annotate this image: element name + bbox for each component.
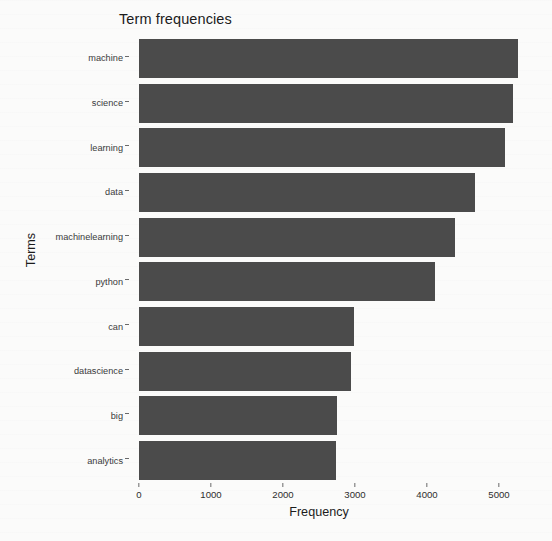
x-axis-tick-label: 0 [136,489,141,500]
x-axis-tick-label: 2000 [272,489,293,500]
y-axis-tick: datascience [0,365,131,377]
y-axis-tick-mark [125,458,129,459]
y-axis-tick-mark [125,235,129,236]
bar [139,128,505,167]
y-axis-tick: learning [0,142,131,154]
y-axis-tick-mark [125,324,129,325]
y-axis-tick: analytics [0,455,131,467]
bar [139,352,351,391]
bar [139,441,336,480]
bar-row [139,262,499,301]
bar [139,218,455,257]
y-axis-tick-label: machinelearning [56,232,125,242]
y-axis-tick-mark [125,190,129,191]
bar-row [139,39,499,78]
x-axis-tick-mark [283,483,284,487]
y-axis-tick: can [0,321,131,333]
bar [139,39,518,78]
x-axis-title: Frequency [139,505,499,519]
y-axis-tick-label: big [111,411,125,421]
bar [139,307,354,346]
y-axis-tick-labels: machinesciencelearningdatamachinelearnin… [0,36,131,483]
bar-row [139,441,499,480]
bar-row [139,128,499,167]
x-axis-tick-label: 3000 [344,489,365,500]
y-axis-tick-label: datascience [74,366,125,376]
bar-chart: Term frequencies machinesciencelearningd… [0,0,552,541]
bar-row [139,396,499,435]
y-axis-tick-label: science [92,98,125,108]
y-axis-tick-label: python [95,277,125,287]
chart-title: Term frequencies [119,11,232,27]
x-axis-tick: 5000 [488,483,509,500]
x-axis-tick-mark [499,483,500,487]
bar [139,396,337,435]
bar [139,84,513,123]
x-axis-tick-mark [355,483,356,487]
x-axis-tick: 4000 [416,483,437,500]
y-axis-tick-mark [125,56,129,57]
y-axis-tick-mark [125,413,129,414]
x-axis-tick-mark [139,483,140,487]
x-axis-tick: 1000 [200,483,221,500]
y-axis-tick-mark [125,101,129,102]
y-axis-tick: machinelearning [0,231,131,243]
y-axis-tick-label: machine [88,53,125,63]
x-axis-tick-mark [427,483,428,487]
bar-row [139,84,499,123]
y-axis-tick-mark [125,279,129,280]
bar-row [139,307,499,346]
y-axis-tick-mark [125,369,129,370]
y-axis-tick: big [0,410,131,422]
x-axis-tick-label: 1000 [200,489,221,500]
y-axis-title: Terms [24,210,38,290]
y-axis-tick-label: learning [90,143,125,153]
y-axis-tick-label: analytics [87,456,125,466]
y-axis-tick: data [0,186,131,198]
bar [139,262,435,301]
y-axis-tick-label: data [105,187,125,197]
y-axis-tick-label: can [108,322,125,332]
plot-area [139,36,499,483]
bar-row [139,352,499,391]
y-axis-tick: machine [0,52,131,64]
x-axis-tick: 0 [136,483,141,500]
y-axis-tick: science [0,97,131,109]
y-axis-tick-mark [125,145,129,146]
y-axis-tick: python [0,276,131,288]
x-axis-tick-mark [211,483,212,487]
x-axis-tick-label: 5000 [488,489,509,500]
bar [139,173,475,212]
x-axis-tick: 2000 [272,483,293,500]
bar-row [139,218,499,257]
x-axis-tick-label: 4000 [416,489,437,500]
bar-row [139,173,499,212]
x-axis-tick: 3000 [344,483,365,500]
